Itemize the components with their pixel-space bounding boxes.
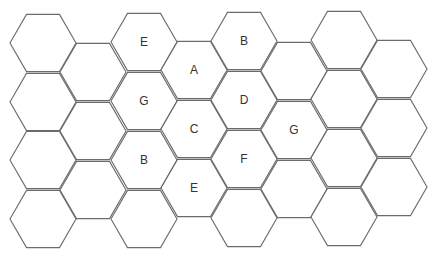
hex-label: C — [190, 123, 199, 135]
hex-label: G — [289, 124, 298, 136]
hex-label: E — [190, 182, 198, 194]
hex-grid-diagram: EGBACEBDFG — [0, 0, 440, 261]
hex-label: A — [190, 64, 198, 76]
hex-label: B — [240, 35, 248, 47]
hex-label: F — [240, 153, 247, 165]
hex-label: G — [139, 95, 148, 107]
hex-label: B — [140, 154, 148, 166]
hex-grid-canvas — [0, 0, 440, 261]
hex-label: E — [140, 36, 148, 48]
hex-label: D — [240, 94, 249, 106]
